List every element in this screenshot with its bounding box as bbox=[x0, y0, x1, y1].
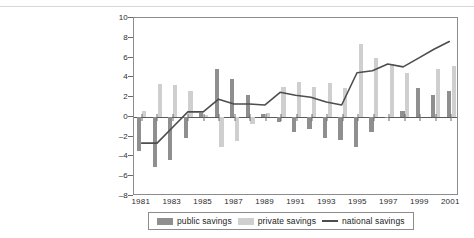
x-tick-mark bbox=[265, 114, 266, 121]
y-tick-label: –8 bbox=[119, 191, 128, 200]
x-tick-mark bbox=[188, 114, 189, 121]
x-tick-mark bbox=[141, 114, 142, 121]
private-bar-swatch bbox=[238, 218, 254, 225]
y-tick-mark bbox=[128, 195, 133, 196]
bar-private-savings-1983 bbox=[173, 85, 177, 117]
bar-private-savings-1991 bbox=[297, 82, 301, 117]
x-tick-mark bbox=[342, 114, 343, 121]
x-tick-mark bbox=[203, 114, 204, 121]
x-tick-label: 1997 bbox=[379, 197, 398, 206]
bar-public-savings-1995 bbox=[354, 117, 358, 147]
x-tick-label: 1989 bbox=[255, 197, 274, 206]
bar-private-savings-1998 bbox=[405, 73, 409, 117]
x-tick-mark bbox=[451, 114, 452, 121]
bar-private-savings-1982 bbox=[158, 84, 162, 117]
bar-private-savings-1988 bbox=[250, 117, 254, 124]
plot-area bbox=[134, 18, 457, 194]
x-tick-mark bbox=[389, 114, 390, 121]
national-line-swatch bbox=[322, 220, 338, 222]
x-tick-mark bbox=[420, 114, 421, 121]
x-tick-label: 1991 bbox=[286, 197, 305, 206]
chart-legend: public savings private savings national … bbox=[148, 212, 414, 230]
plot-frame bbox=[133, 17, 458, 195]
y-tick-label: –4 bbox=[119, 151, 128, 160]
bar-private-savings-1989 bbox=[266, 113, 270, 117]
x-tick-mark bbox=[234, 114, 235, 121]
bar-public-savings-1999 bbox=[416, 88, 420, 117]
bar-private-savings-1994 bbox=[343, 88, 347, 117]
bar-public-savings-1981 bbox=[137, 117, 141, 152]
bar-private-savings-2001 bbox=[452, 66, 456, 116]
bar-private-savings-1997 bbox=[390, 64, 394, 116]
x-tick-mark bbox=[281, 114, 282, 121]
public-bar-swatch bbox=[157, 218, 173, 225]
bar-private-savings-1981 bbox=[142, 111, 146, 117]
bar-public-savings-1982 bbox=[153, 117, 157, 167]
x-tick-label: 1981 bbox=[131, 197, 150, 206]
legend-label-private-savings: private savings bbox=[258, 216, 316, 226]
x-tick-mark bbox=[435, 114, 436, 121]
x-tick-label: 1995 bbox=[348, 197, 367, 206]
legend-label-national-savings: national savings bbox=[342, 216, 405, 226]
legend-label-public-savings: public savings bbox=[177, 216, 232, 226]
x-tick-mark bbox=[157, 114, 158, 121]
bar-private-savings-1996 bbox=[374, 58, 378, 117]
x-tick-mark bbox=[327, 114, 328, 121]
bar-private-savings-1985 bbox=[204, 115, 208, 117]
legend-item-private-savings: private savings bbox=[238, 216, 316, 226]
savings-chart-figure: 1086420–2–4–6–8 198119831985198719891991… bbox=[0, 0, 474, 238]
bar-public-savings-1986 bbox=[215, 69, 219, 116]
x-tick-mark bbox=[404, 114, 405, 121]
x-tick-label: 1983 bbox=[162, 197, 181, 206]
bar-public-savings-1987 bbox=[230, 79, 234, 117]
bar-private-savings-1990 bbox=[281, 87, 285, 117]
bar-public-savings-1983 bbox=[168, 117, 172, 161]
x-tick-mark bbox=[296, 114, 297, 121]
bar-private-savings-1993 bbox=[328, 83, 332, 117]
x-tick-mark bbox=[250, 114, 251, 121]
x-tick-label: 1987 bbox=[224, 197, 243, 206]
y-axis-labels: 1086420–2–4–6–8 bbox=[108, 17, 128, 195]
x-tick-label: 1985 bbox=[193, 197, 212, 206]
y-tick-label: –2 bbox=[119, 131, 128, 140]
x-tick-mark bbox=[358, 114, 359, 121]
legend-item-national-savings: national savings bbox=[322, 216, 405, 226]
x-tick-mark bbox=[219, 114, 220, 121]
y-tick-label: –6 bbox=[119, 171, 128, 180]
bar-private-savings-1986 bbox=[219, 117, 223, 147]
bar-private-savings-1992 bbox=[312, 87, 316, 117]
x-tick-mark bbox=[311, 114, 312, 121]
x-tick-mark bbox=[172, 114, 173, 121]
bar-private-savings-1984 bbox=[188, 91, 192, 117]
x-axis-labels: 1981198319851987198919911993199519971999… bbox=[133, 197, 458, 211]
x-tick-label: 2001 bbox=[441, 197, 460, 206]
x-tick-mark bbox=[373, 114, 374, 121]
x-tick-label: 1999 bbox=[410, 197, 429, 206]
x-tick-label: 1993 bbox=[317, 197, 336, 206]
bar-private-savings-1987 bbox=[235, 117, 239, 141]
y-tick-label: 10 bbox=[119, 13, 128, 22]
bar-private-savings-1995 bbox=[359, 44, 363, 117]
bar-private-savings-2000 bbox=[436, 69, 440, 116]
legend-item-public-savings: public savings bbox=[157, 216, 232, 226]
